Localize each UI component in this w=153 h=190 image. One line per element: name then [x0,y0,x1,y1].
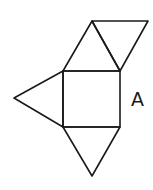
pyramid-net-diagram: A [0,0,153,190]
top-right-triangle [92,21,148,71]
square-base [63,71,120,127]
bottom-triangle [63,127,120,176]
label-a: A [131,88,144,110]
top-triangle [63,21,120,71]
left-triangle [14,71,63,127]
